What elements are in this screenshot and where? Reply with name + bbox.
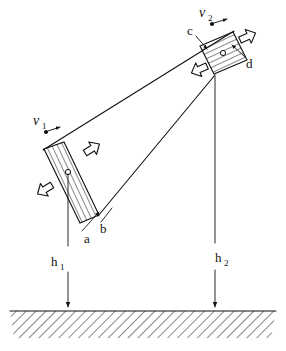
label-v1-subscript: 1 [42, 121, 47, 131]
label-h2-subscript: 2 [224, 258, 229, 268]
v1-arrow [48, 127, 60, 131]
left-plate-force-arrow-lower [34, 179, 56, 201]
label-h1-subscript: 1 [60, 262, 65, 272]
label-v1: v [33, 113, 40, 128]
label-d: d [246, 56, 253, 71]
label-h2: h [215, 250, 222, 265]
v2-arrow [214, 19, 227, 23]
label-v2-subscript: 2 [208, 13, 213, 23]
right-plate-force-arrow-upper [237, 26, 259, 46]
label-h1: h [51, 254, 58, 269]
label-b: b [100, 221, 107, 236]
left-plate-body [44, 142, 99, 223]
physics-diagram: v 1 v 2 a b c d h 1 h 2 [0, 0, 286, 351]
right-plate-force-arrow-lower [188, 59, 210, 79]
right-plate-center-point [220, 50, 225, 55]
lower-connecting-line [98, 75, 215, 216]
ground-hatched-surface [10, 311, 276, 338]
left-plate-force-arrow-upper [81, 138, 103, 160]
left-inclined-plate [44, 142, 99, 223]
label-a: a [84, 231, 90, 246]
label-v2: v [199, 5, 206, 20]
ground-hatching [10, 311, 276, 338]
figure-canvas: v 1 v 2 a b c d h 1 h 2 [0, 0, 286, 351]
label-c: c [187, 23, 193, 38]
